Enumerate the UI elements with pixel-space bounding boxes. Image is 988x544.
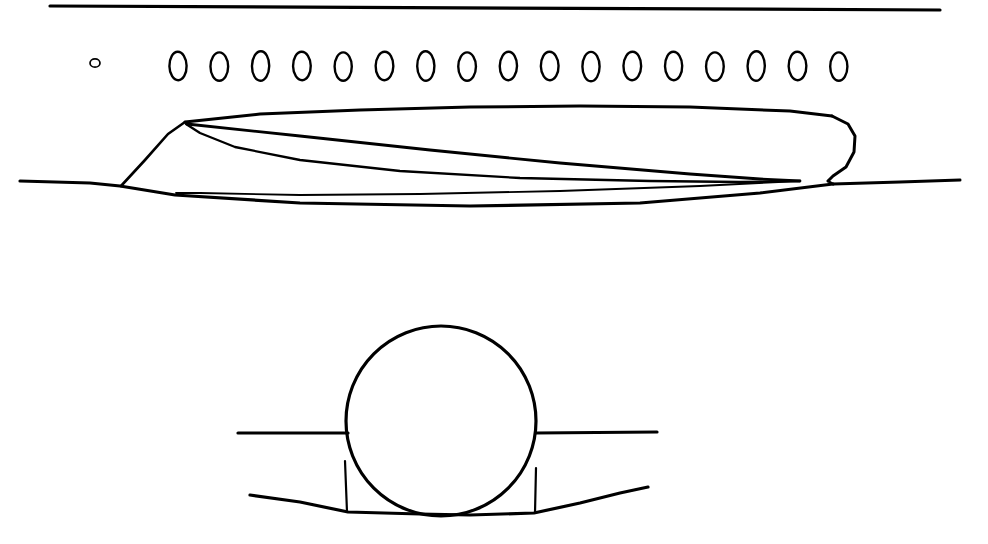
cabin-window-oval (788, 52, 806, 81)
cabin-window-oval (458, 52, 476, 80)
cabin-window-oval (706, 52, 724, 80)
cabin-window-oval (582, 52, 599, 81)
aft-extension-line (833, 180, 960, 184)
small-porthole-window (90, 59, 100, 67)
nose-strut-line (121, 122, 185, 186)
cabin-window-oval (375, 52, 393, 81)
cabin-window-oval (747, 51, 765, 81)
cabin-window-oval (252, 51, 270, 81)
left-vertical-strut (345, 461, 347, 512)
cabin-window-oval (830, 52, 847, 80)
cabin-window-oval (665, 52, 683, 81)
cabin-window-oval (293, 52, 311, 81)
cabin-window-oval (169, 52, 187, 81)
drawing-canvas (0, 0, 988, 544)
fuselage-side-view-group (20, 6, 960, 206)
cabin-window-oval (623, 52, 641, 81)
cabin-window-oval (541, 52, 559, 81)
tail-cap-curve (828, 116, 855, 181)
upper-fuselage-skin-line (185, 106, 832, 122)
right-vertical-strut (535, 468, 536, 513)
fuselage-section-circle (346, 326, 536, 516)
right-wing-reference-line (536, 432, 657, 433)
cabin-window-oval (417, 51, 435, 81)
window-row-group (90, 51, 847, 81)
line-drawing-svg (0, 0, 988, 544)
cabin-window-oval (210, 52, 228, 80)
wing-upper-chord-line (187, 124, 800, 181)
wing-inner-fold-line (176, 181, 800, 195)
cabin-window-oval (500, 52, 518, 81)
cabin-window-oval (335, 52, 352, 80)
fuselage-cross-section-group (238, 326, 657, 516)
lower-belly-fairing-line (250, 487, 648, 515)
upper-reference-line (50, 6, 940, 10)
